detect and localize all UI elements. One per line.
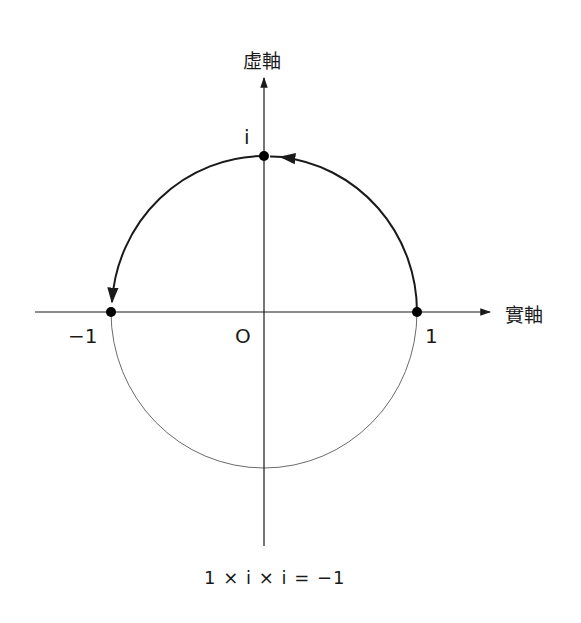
point-i [259, 151, 269, 161]
real-axis-label: 實軸 [505, 300, 543, 327]
one-label: 1 [425, 324, 438, 348]
rotation-arc-1-to-i [281, 157, 417, 312]
point-i-label: i [244, 125, 250, 149]
formula: 1 × i × i = −1 [204, 567, 346, 588]
origin-label: O [235, 324, 251, 348]
imaginary-axis-label: 虛軸 [243, 46, 281, 73]
minus-one-label: −1 [68, 324, 97, 348]
point-minus-one [106, 307, 116, 317]
point-one [412, 307, 422, 317]
rotation-arc-i-to-minus-1 [112, 156, 264, 302]
complex-plane-diagram [0, 0, 581, 623]
